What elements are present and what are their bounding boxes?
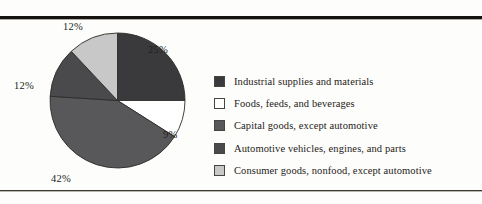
legend-swatch-consumer-goods bbox=[214, 165, 225, 176]
legend-label-foods-feeds-beverages: Foods, feeds, and beverages bbox=[234, 98, 355, 109]
legend-item-capital-goods: Capital goods, except automotive bbox=[214, 115, 472, 137]
legend-label-consumer-goods: Consumer goods, nonfood, except automoti… bbox=[234, 165, 432, 176]
legend-swatch-capital-goods bbox=[214, 120, 225, 131]
legend-item-foods-feeds-beverages: Foods, feeds, and beverages bbox=[214, 92, 472, 114]
legend-item-consumer-goods: Consumer goods, nonfood, except automoti… bbox=[214, 160, 472, 182]
legend-label-automotive-vehicles: Automotive vehicles, engines, and parts bbox=[234, 143, 406, 154]
legend-swatch-foods-feeds-beverages bbox=[214, 98, 225, 109]
legend-label-capital-goods: Capital goods, except automotive bbox=[234, 120, 378, 131]
plot-area: 25% 9% 42% 12% 12% Industrial supplies a… bbox=[0, 18, 482, 188]
legend-swatch-automotive-vehicles bbox=[214, 143, 225, 154]
legend-item-automotive-vehicles: Automotive vehicles, engines, and parts bbox=[214, 137, 472, 159]
bottom-rule bbox=[0, 190, 482, 191]
pie-label-consumer-goods: 12% bbox=[63, 21, 83, 32]
pie-label-automotive-vehicles: 12% bbox=[14, 80, 34, 91]
pie-label-capital-goods: 42% bbox=[51, 173, 71, 184]
pie-label-industrial-supplies: 25% bbox=[148, 44, 168, 55]
legend-swatch-industrial-supplies bbox=[214, 76, 225, 87]
figure-container: 25% 9% 42% 12% 12% Industrial supplies a… bbox=[0, 0, 482, 204]
legend-item-industrial-supplies: Industrial supplies and materials bbox=[214, 70, 472, 92]
pie-label-foods-feeds-beverages: 9% bbox=[163, 129, 177, 140]
chart-legend: Industrial supplies and materials Foods,… bbox=[214, 70, 472, 182]
legend-label-industrial-supplies: Industrial supplies and materials bbox=[234, 76, 373, 87]
